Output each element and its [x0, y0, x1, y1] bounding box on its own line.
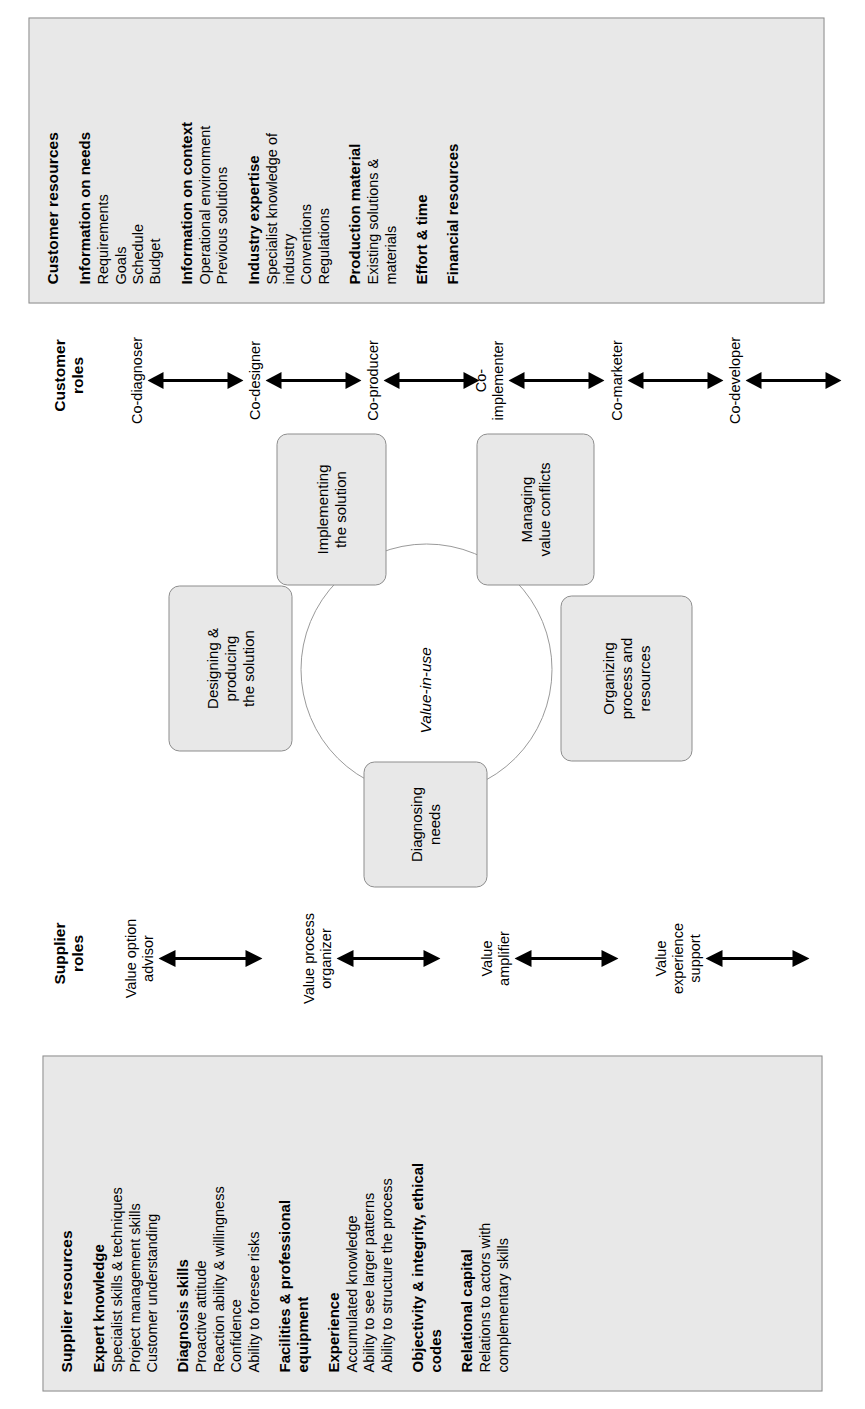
- supplier-group-objectivity: Objectivity & integrity, ethical codes: [408, 1074, 444, 1372]
- diagram-rotation-wrapper: Supplier resources Expert knowledge Spec…: [0, 0, 865, 1409]
- wheel-node-organizing-process[interactable]: Organizing process and resources: [560, 595, 692, 761]
- double-arrow-icon: [508, 367, 604, 393]
- double-arrow-icon: [383, 367, 479, 393]
- group-heading: Diagnosis skills: [173, 1074, 191, 1372]
- group-heading: Information on context: [177, 36, 195, 284]
- supplier-role-value-process-organizer: Value process organizer: [300, 903, 440, 1013]
- customer-role-co-implementer: Co- implementer: [472, 325, 604, 435]
- group-item: Existing solutions & materials: [364, 144, 399, 284]
- group-item: Confidence: [227, 1172, 244, 1372]
- role-label: Value process organizer: [300, 913, 334, 1004]
- customer-roles-title: Customer roles: [50, 305, 87, 445]
- role-label: Co- implementer: [472, 340, 506, 420]
- customer-roles-column: Customer roles Co-diagnoser Co-designer …: [42, 291, 822, 459]
- role-label: Co-diagnoser: [128, 336, 145, 423]
- supplier-roles-column: Supplier roles Value option advisor Valu…: [42, 869, 822, 1037]
- customer-resources-title: Customer resources: [43, 36, 61, 284]
- double-arrow-icon: [514, 945, 618, 971]
- supplier-group-experience: Experience Accumulated knowledge Ability…: [324, 1074, 395, 1372]
- group-item: Requirements: [94, 84, 111, 284]
- customer-group-information-on-needs: Information on needs Requirements Goals …: [75, 36, 164, 284]
- group-item: Proactive attitude: [192, 1172, 209, 1372]
- group-item: Relations to actors with complementary s…: [476, 1182, 511, 1372]
- double-arrow-icon: [147, 367, 243, 393]
- group-item: Reaction ability & willingness: [210, 1172, 227, 1372]
- group-heading: Industry expertise: [244, 36, 262, 284]
- group-item: Previous solutions: [213, 84, 230, 284]
- group-heading: Information on needs: [75, 36, 93, 284]
- customer-role-co-diagnoser: Co-diagnoser: [128, 325, 243, 435]
- group-item: Specialist skills & techniques: [108, 1172, 125, 1372]
- group-item: Accumulated knowledge: [343, 1172, 360, 1372]
- role-label: Co-producer: [364, 340, 381, 421]
- group-heading: Production material: [345, 36, 363, 284]
- diagram-canvas: Supplier resources Expert knowledge Spec…: [0, 0, 865, 1409]
- supplier-role-value-experience-support: Value experience support: [652, 903, 809, 1013]
- supplier-role-value-amplifier: Value amplifier: [478, 903, 618, 1013]
- supplier-group-relational-capital: Relational capital Relations to actors w…: [457, 1074, 511, 1372]
- double-arrow-icon: [158, 945, 262, 971]
- group-heading: Objectivity & integrity, ethical codes: [408, 1157, 444, 1372]
- customer-group-industry-expertise: Industry expertise Specialist knowledge …: [244, 36, 333, 284]
- role-label: Value amplifier: [478, 931, 512, 986]
- role-label: Value option advisor: [122, 918, 156, 998]
- double-arrow-icon: [627, 367, 723, 393]
- group-item: Schedule: [129, 84, 146, 284]
- group-item: Operational environment: [196, 84, 213, 284]
- supplier-role-value-option-advisor: Value option advisor: [122, 903, 262, 1013]
- group-heading: Facilities & professional equipment: [275, 1157, 311, 1372]
- group-heading: Effort & time: [412, 36, 430, 284]
- role-label: Co-developer: [726, 336, 743, 423]
- double-arrow-icon: [265, 367, 361, 393]
- supplier-group-diagnosis-skills: Diagnosis skills Proactive attitude Reac…: [173, 1074, 262, 1372]
- supplier-resources-panel: Supplier resources Expert knowledge Spec…: [42, 1055, 822, 1391]
- role-label: Co-marketer: [608, 340, 625, 421]
- double-arrow-icon: [705, 945, 809, 971]
- customer-group-effort-time: Effort & time: [412, 36, 430, 284]
- wheel-node-diagnosing-needs[interactable]: Diagnosing needs: [363, 761, 487, 887]
- customer-role-co-designer: Co-designer: [246, 325, 361, 435]
- customer-group-production-material: Production material Existing solutions &…: [345, 36, 399, 284]
- double-arrow-icon: [745, 367, 841, 393]
- supplier-group-facilities: Facilities & professional equipment: [275, 1074, 311, 1372]
- group-item: Ability to see larger patterns: [360, 1172, 377, 1372]
- customer-group-financial-resources: Financial resources: [443, 36, 461, 284]
- group-item: Conventions: [297, 84, 314, 284]
- customer-resources-panel: Customer resources Information on needs …: [28, 17, 824, 303]
- group-item: Regulations: [315, 84, 332, 284]
- customer-role-co-marketer: Co-marketer: [608, 325, 723, 435]
- supplier-group-expert-knowledge: Expert knowledge Specialist skills & tec…: [89, 1074, 160, 1372]
- supplier-resources-title: Supplier resources: [57, 1074, 75, 1372]
- group-heading: Financial resources: [443, 36, 461, 284]
- customer-group-information-on-context: Information on context Operational envir…: [177, 36, 231, 284]
- group-heading: Expert knowledge: [89, 1074, 107, 1372]
- role-label: Co-designer: [246, 341, 263, 420]
- customer-role-co-developer: Co-developer: [726, 325, 841, 435]
- group-item: Specialist knowledge of industry: [263, 114, 298, 284]
- group-item: Project management skills: [126, 1172, 143, 1372]
- group-item: Goals: [112, 84, 129, 284]
- value-in-use-label: Value-in-use: [416, 647, 434, 733]
- customer-role-co-producer: Co-producer: [364, 325, 479, 435]
- group-item: Ability to foresee risks: [245, 1172, 262, 1372]
- double-arrow-icon: [336, 945, 440, 971]
- role-label: Value experience support: [652, 923, 703, 994]
- wheel-node-designing-producing[interactable]: Designing & producing the solution: [168, 585, 292, 751]
- group-heading: Experience: [324, 1074, 342, 1372]
- group-item: Budget: [146, 84, 163, 284]
- group-item: Ability to structure the process: [378, 1172, 395, 1372]
- group-heading: Relational capital: [457, 1074, 475, 1372]
- supplier-roles-title: Supplier roles: [50, 883, 87, 1023]
- value-in-use-wheel: Diagnosing needs Designing & producing t…: [150, 431, 710, 861]
- group-item: Customer understanding: [143, 1172, 160, 1372]
